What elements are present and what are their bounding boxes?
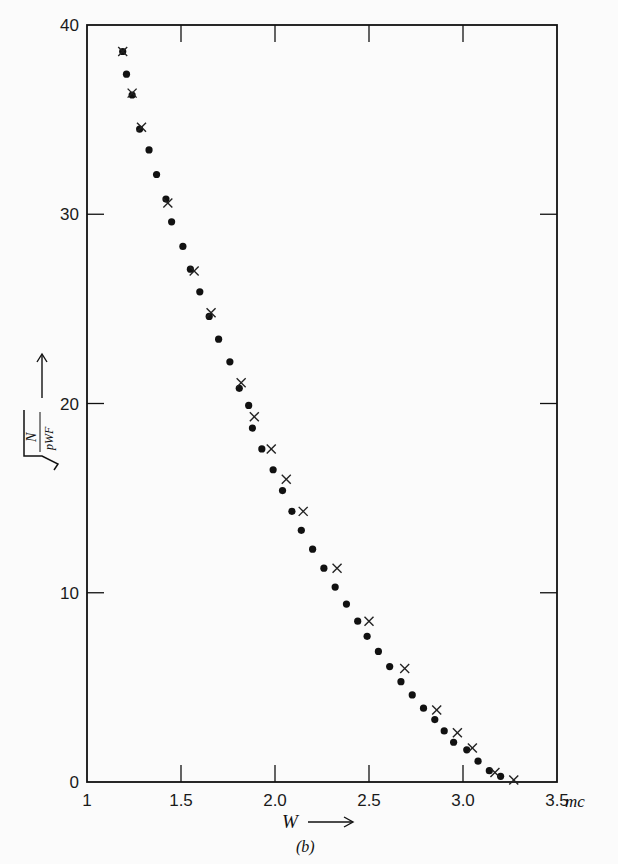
cross-marker <box>250 412 259 421</box>
y-label-numerator: N <box>24 432 39 443</box>
dot-marker <box>249 425 256 432</box>
dot-marker <box>236 385 243 392</box>
dot-marker <box>179 243 186 250</box>
dot-marker <box>375 648 382 655</box>
cross-marker <box>400 664 409 673</box>
x-label: W <box>282 811 300 832</box>
dot-marker <box>196 288 203 295</box>
dot-marker <box>343 601 350 608</box>
plot-frame <box>87 25 557 782</box>
dot-marker <box>332 583 339 590</box>
figure-caption: (b) <box>296 838 315 856</box>
data-points <box>118 47 518 785</box>
dot-marker <box>123 71 130 78</box>
dot-marker <box>309 546 316 553</box>
cross-marker <box>365 617 374 626</box>
dot-marker <box>354 618 361 625</box>
cross-marker <box>282 475 291 484</box>
cross-marker <box>432 706 441 715</box>
dot-marker <box>431 716 438 723</box>
y-tick-label: 20 <box>60 395 79 414</box>
dot-marker <box>270 466 277 473</box>
dot-marker <box>397 678 404 685</box>
x-tick-label: 1 <box>82 791 91 810</box>
dot-marker <box>364 633 371 640</box>
dot-marker <box>153 171 160 178</box>
y-tick-label: 0 <box>70 773 79 792</box>
x-tick-label: 3.0 <box>451 791 475 810</box>
y-tick-label: 30 <box>60 205 79 224</box>
x-axis-label: W mc (b) <box>282 792 585 856</box>
cross-marker <box>509 776 518 785</box>
cross-marker <box>299 507 308 516</box>
dot-marker <box>486 767 493 774</box>
y-axis-label: N pWF <box>24 354 58 470</box>
dot-marker <box>258 445 265 452</box>
x-tick-label: 2.5 <box>357 791 381 810</box>
dot-marker <box>168 218 175 225</box>
y-label-denominator: pWF <box>42 426 56 451</box>
dot-marker <box>441 727 448 734</box>
dot-marker <box>298 527 305 534</box>
x-tick-label: 2.0 <box>263 791 287 810</box>
dot-marker <box>215 336 222 343</box>
dot-marker <box>279 487 286 494</box>
y-tick-label: 10 <box>60 584 79 603</box>
dot-marker <box>409 691 416 698</box>
y-tick-label: 40 <box>60 16 79 35</box>
tick-labels: 11.52.02.53.03.5010203040 <box>60 16 569 810</box>
axis-ticks <box>87 25 557 782</box>
dot-marker <box>245 402 252 409</box>
cross-marker <box>453 728 462 737</box>
dot-marker <box>320 565 327 572</box>
dot-marker <box>450 739 457 746</box>
x-tick-label: 1.5 <box>169 791 193 810</box>
dot-marker <box>420 705 427 712</box>
dot-marker <box>145 146 152 153</box>
dot-marker <box>474 758 481 765</box>
cross-marker <box>267 444 276 453</box>
dot-marker <box>463 746 470 753</box>
x-unit: mc <box>565 792 585 811</box>
dot-marker <box>288 508 295 515</box>
dot-marker <box>386 663 393 670</box>
cross-marker <box>333 564 342 573</box>
dot-marker <box>226 358 233 365</box>
scatter-plot: 11.52.02.53.03.5010203040 N pWF W mc (b) <box>0 0 618 864</box>
